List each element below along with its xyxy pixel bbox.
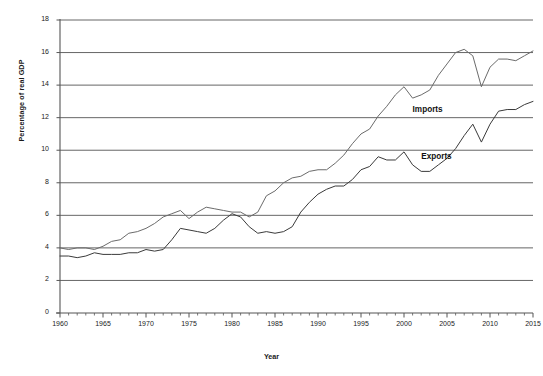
y-tick-label-6: 6 xyxy=(27,210,49,217)
x-tick-label-1970: 1970 xyxy=(126,320,166,327)
footer-caption xyxy=(0,366,543,376)
x-tick-label-1975: 1975 xyxy=(169,320,209,327)
x-tick-label-2005: 2005 xyxy=(427,320,467,327)
x-tick-label-1985: 1985 xyxy=(255,320,295,327)
y-tick-label-12: 12 xyxy=(27,113,49,120)
y-tick-label-8: 8 xyxy=(27,178,49,185)
y-tick-label-2: 2 xyxy=(27,275,49,282)
y-axis-title: Percentage of real GDP xyxy=(17,31,26,171)
x-tick-label-1980: 1980 xyxy=(212,320,252,327)
x-tick-label-2015: 2015 xyxy=(513,320,543,327)
y-tick-label-16: 16 xyxy=(27,48,49,55)
series-line-exports xyxy=(60,101,533,257)
y-tick-label-10: 10 xyxy=(27,145,49,152)
chart-figure: Percentage of real GDP Year 024681012141… xyxy=(0,0,543,376)
series-label-imports: Imports xyxy=(413,105,443,114)
x-axis-title: Year xyxy=(0,352,543,361)
x-tick-label-2000: 2000 xyxy=(384,320,424,327)
x-tick-label-1965: 1965 xyxy=(83,320,123,327)
y-tick-label-0: 0 xyxy=(27,308,49,315)
x-tick-label-1990: 1990 xyxy=(298,320,338,327)
x-tick-label-2010: 2010 xyxy=(470,320,510,327)
series-label-exports: Exports xyxy=(421,152,451,161)
x-tick-label-1960: 1960 xyxy=(40,320,80,327)
x-tick-label-1995: 1995 xyxy=(341,320,381,327)
y-tick-label-4: 4 xyxy=(27,243,49,250)
y-tick-label-14: 14 xyxy=(27,80,49,87)
y-tick-label-18: 18 xyxy=(27,15,49,22)
